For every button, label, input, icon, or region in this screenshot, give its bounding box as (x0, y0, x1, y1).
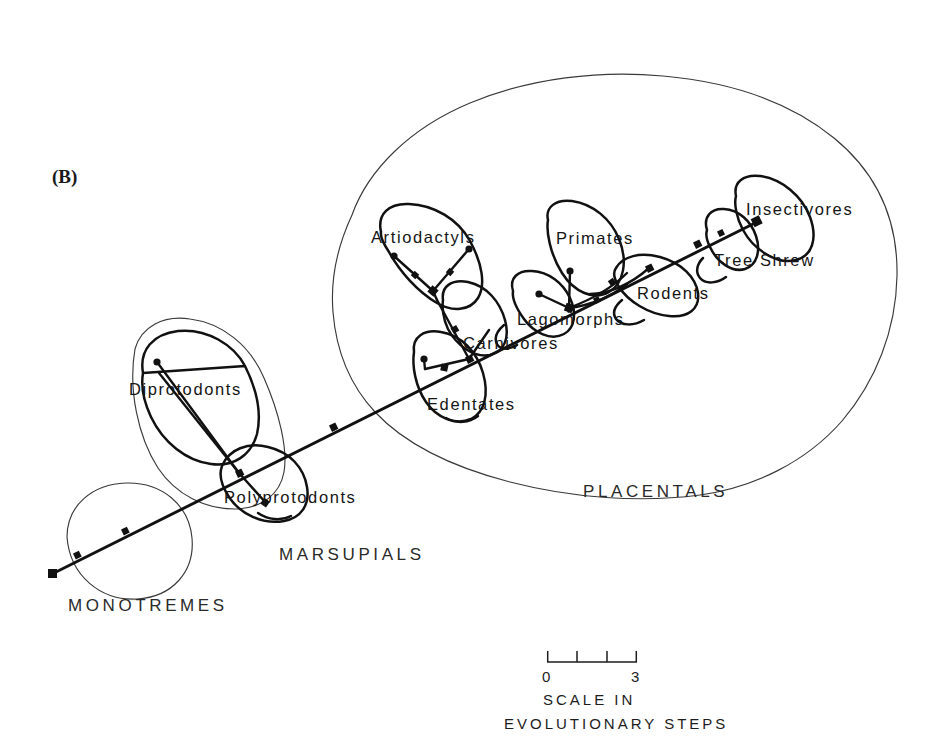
scale-caption-line-1: SCALE IN (543, 691, 635, 708)
diagram-svg: .thin { fill:none; stroke:#3a3a3a; strok… (0, 0, 935, 739)
taxon-label-insectivores: Insectivores (746, 200, 853, 219)
taxon-label-diprotodonts: Diprotodonts (129, 380, 242, 399)
group-label-monotremes: MONOTREMES (68, 596, 228, 616)
taxon-label-primates: Primates (556, 229, 634, 248)
scale-bar (547, 651, 637, 662)
monotremes-boundary (67, 483, 192, 599)
figure-canvas: .thin { fill:none; stroke:#3a3a3a; strok… (0, 0, 935, 739)
taxon-label-edentates: Edentates (427, 395, 516, 414)
taxon-label-lagomorphs: Lagomorphs (517, 310, 625, 329)
taxon-label-artiodactyls: Artiodactyls (371, 228, 475, 247)
tree-shrew-loop (697, 209, 758, 283)
taxon-label-rodents: Rodents (637, 284, 710, 303)
branch-lagomorphs (535, 267, 574, 313)
taxon-label-tree-shrew: Tree Shrew (714, 251, 815, 270)
panel-letter: (B) (52, 166, 77, 188)
group-label-marsupials: MARSUPIALS (279, 545, 425, 565)
scale-caption-line-2: EVOLUTIONARY STEPS (504, 715, 728, 732)
branch-diprotodonts (153, 358, 239, 473)
taxon-label-carnivores: Carnivores (463, 334, 559, 353)
group-label-placentals: PLACENTALS (583, 482, 728, 502)
scale-tick-label-max: 3 (631, 668, 639, 685)
scale-tick-label-min: 0 (542, 668, 550, 685)
marsupials-boundary (133, 318, 285, 509)
branch-tree-shrew (717, 229, 725, 237)
taxon-label-polyprotodonts: Polyprotodonts (224, 488, 356, 507)
